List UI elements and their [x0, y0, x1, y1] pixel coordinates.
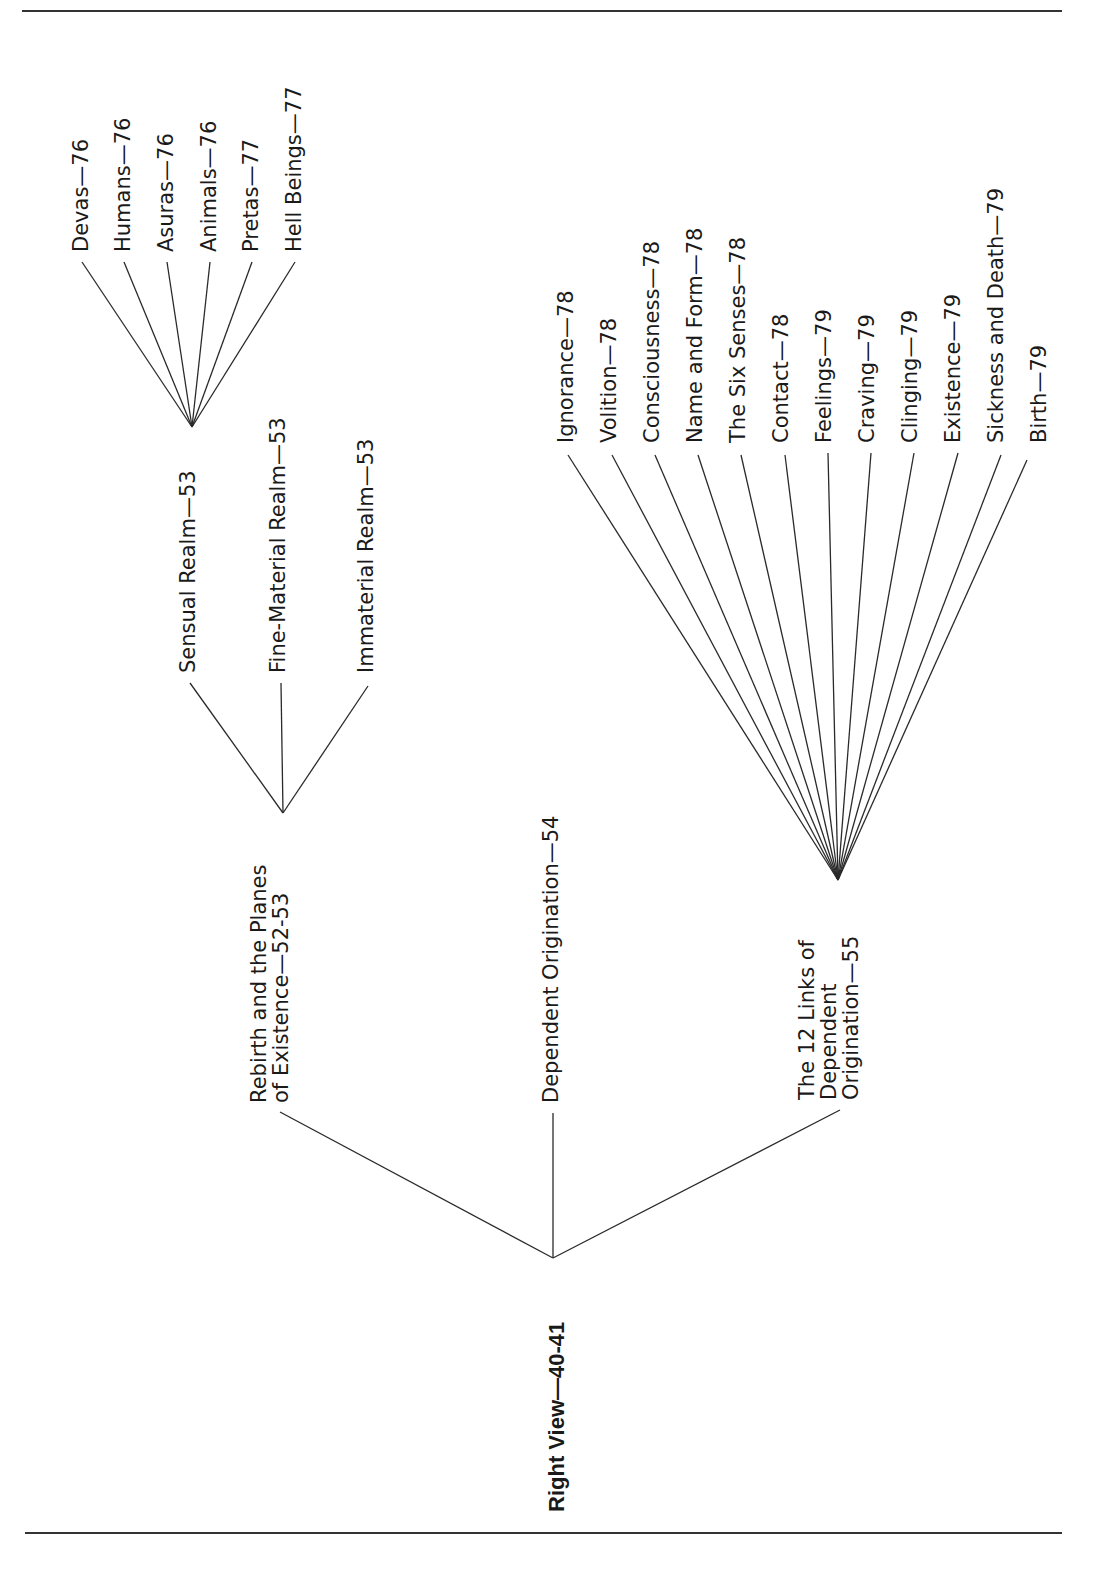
edge-links-existence [838, 453, 958, 880]
node-asuras: Asuras—76 [155, 133, 177, 252]
edge-sensual-humans [124, 262, 192, 427]
node-fine-material-realm: Fine-Material Realm—53 [267, 417, 289, 673]
edge-root-12-links [553, 1110, 840, 1258]
node-consciousness: Consciousness—78 [641, 241, 663, 443]
node-six-senses: The Six Senses—78 [727, 237, 749, 443]
node-rebirth-planes: Rebirth and the Planes of Existence—52-5… [248, 865, 292, 1103]
node-craving: Craving—79 [856, 314, 878, 443]
edge-sensual-asuras [167, 262, 192, 427]
node-volition: Volition—78 [598, 318, 620, 443]
edge-links-sickness-death [838, 455, 1001, 880]
edge-root-rebirth [280, 1112, 553, 1258]
node-dependent-origination: Dependent Origination—54 [540, 816, 562, 1103]
node-immaterial-realm: Immaterial Realm—53 [355, 439, 377, 673]
node-pretas: Pretas—77 [240, 139, 262, 252]
node-rebirth-line1: Rebirth and the Planes [248, 865, 270, 1103]
edge-links-consciousness [655, 455, 838, 880]
node-devas: Devas—76 [70, 139, 92, 252]
edge-links-volition [612, 455, 838, 880]
node-12-links-line2: Dependent [818, 936, 840, 1100]
node-humans: Humans—76 [112, 118, 134, 252]
node-feelings: Feelings—79 [813, 309, 835, 443]
node-12-links-line1: The 12 Links of [796, 936, 818, 1100]
edge-links-six-senses [741, 455, 838, 880]
edge-links-craving [838, 453, 871, 880]
node-existence: Existence—79 [942, 294, 964, 443]
node-sensual-realm: Sensual Realm—53 [177, 470, 199, 673]
node-clinging: Clinging—79 [899, 310, 921, 443]
root-node-right-view: Right View—40-41 [546, 1322, 568, 1512]
edge-rebirth-sensual [190, 683, 283, 813]
node-animals: Animals—76 [198, 121, 220, 252]
edge-links-ignorance [568, 455, 838, 880]
edge-sensual-devas [82, 262, 192, 427]
node-birth: Birth—79 [1028, 345, 1050, 443]
edge-links-birth [838, 460, 1027, 880]
edge-rebirth-fine-material [281, 683, 283, 813]
node-hell-beings: Hell Beings—77 [283, 86, 305, 252]
edge-links-name-and-form [698, 455, 838, 880]
node-rebirth-line2: of Existence—52-53 [270, 865, 292, 1103]
node-ignorance: Ignorance—78 [555, 290, 577, 443]
node-contact: Contact—78 [770, 314, 792, 443]
node-dependent-origination-line1: Dependent Origination—54 [540, 816, 562, 1103]
node-12-links: The 12 Links of Dependent Origination—55 [796, 936, 862, 1100]
node-12-links-line3: Origination—55 [840, 936, 862, 1100]
node-name-and-form: Name and Form—78 [684, 228, 706, 443]
node-sickness-and-death: Sickness and Death—79 [985, 188, 1007, 443]
edge-rebirth-immaterial [283, 686, 368, 813]
edge-links-clinging [838, 453, 914, 880]
